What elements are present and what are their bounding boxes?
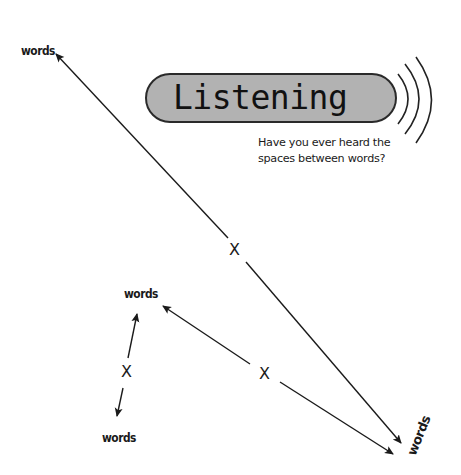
sound-waves-icon: [398, 57, 432, 143]
marker-x-center: X: [229, 242, 240, 258]
listening-title-pill: Listening: [145, 73, 397, 123]
label-words-bottom-left: words: [102, 430, 136, 445]
marker-x-lower-middle: X: [259, 366, 270, 382]
marker-x-left: X: [121, 364, 132, 380]
arrows-layer: [0, 0, 461, 475]
arrow-left-x-up: [128, 314, 137, 358]
label-words-top-left: words: [21, 43, 55, 58]
arrow-left-x-down: [117, 388, 123, 416]
label-words-middle-left: words: [124, 286, 158, 301]
arrow-center-to-bottom-right: [246, 262, 401, 443]
diagram-canvas: Listening Have you ever heard the spaces…: [0, 0, 461, 475]
arrow-lower-x-to-middle-left: [163, 306, 250, 364]
caption-text: Have you ever heard the spaces between w…: [258, 135, 428, 167]
title-text: Listening: [173, 78, 347, 117]
arrow-lower-x-to-bottom-right: [280, 382, 393, 454]
